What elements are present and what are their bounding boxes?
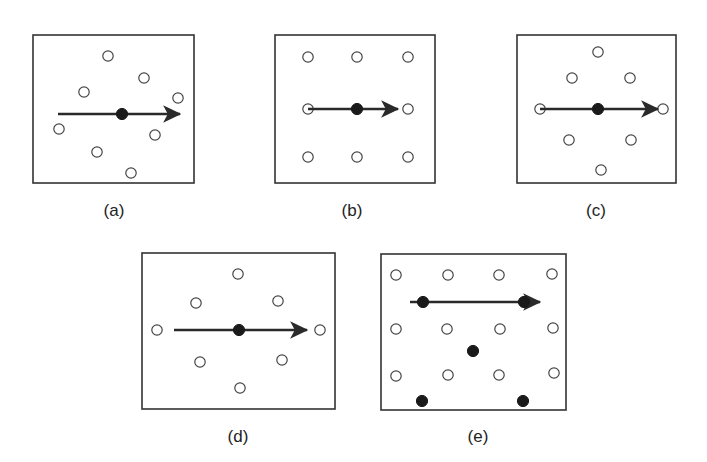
open-lattice-site-icon — [103, 51, 113, 61]
open-lattice-site-icon — [494, 270, 504, 280]
panel-frame — [381, 254, 566, 410]
filled-atom-icon — [351, 103, 362, 114]
open-lattice-site-icon — [195, 357, 205, 367]
filled-atom-icon — [116, 108, 127, 119]
open-lattice-site-icon — [235, 383, 245, 393]
open-lattice-site-icon — [626, 135, 636, 145]
open-lattice-site-icon — [173, 93, 183, 103]
open-lattice-site-icon — [233, 269, 243, 279]
open-lattice-site-icon — [139, 73, 149, 83]
open-lattice-site-icon — [548, 323, 558, 333]
open-lattice-site-icon — [273, 296, 283, 306]
open-lattice-site-icon — [403, 52, 413, 62]
open-lattice-site-icon — [403, 104, 413, 114]
open-lattice-site-icon — [150, 130, 160, 140]
open-lattice-site-icon — [443, 370, 453, 380]
open-lattice-site-icon — [596, 165, 606, 175]
open-lattice-site-icon — [92, 147, 102, 157]
open-lattice-site-icon — [495, 324, 505, 334]
panel-label: (e) — [468, 427, 489, 446]
panel-label: (d) — [228, 427, 249, 446]
open-lattice-site-icon — [152, 325, 162, 335]
panel-label: (a) — [104, 201, 125, 220]
filled-atom-icon — [417, 296, 428, 307]
filled-atom-icon — [517, 395, 528, 406]
panels: (a)(b)(c)(d)(e) — [33, 35, 676, 446]
lattice-figure: (a)(b)(c)(d)(e) — [0, 0, 707, 462]
open-lattice-site-icon — [658, 104, 668, 114]
open-lattice-site-icon — [442, 324, 452, 334]
open-lattice-site-icon — [126, 168, 136, 178]
open-lattice-site-icon — [391, 270, 401, 280]
open-lattice-site-icon — [79, 87, 89, 97]
filled-atom-icon — [467, 345, 478, 356]
filled-atom-icon — [592, 103, 603, 114]
open-lattice-site-icon — [443, 270, 453, 280]
panel-a: (a) — [33, 35, 194, 220]
open-lattice-site-icon — [391, 371, 401, 381]
panel-e: (e) — [381, 254, 566, 446]
open-lattice-site-icon — [494, 370, 504, 380]
open-lattice-site-icon — [54, 124, 64, 134]
open-lattice-site-icon — [277, 355, 287, 365]
panel-d: (d) — [142, 253, 335, 446]
open-lattice-site-icon — [303, 52, 313, 62]
open-lattice-site-icon — [352, 152, 362, 162]
panel-label: (b) — [342, 201, 363, 220]
open-lattice-site-icon — [564, 135, 574, 145]
open-lattice-site-icon — [625, 73, 635, 83]
panel-b: (b) — [275, 35, 435, 220]
open-lattice-site-icon — [352, 52, 362, 62]
open-lattice-site-icon — [549, 368, 559, 378]
panel-label: (c) — [586, 201, 606, 220]
open-lattice-site-icon — [303, 152, 313, 162]
open-lattice-site-icon — [567, 73, 577, 83]
open-lattice-site-icon — [593, 47, 603, 57]
open-lattice-site-icon — [403, 152, 413, 162]
filled-atom-icon — [416, 395, 427, 406]
open-lattice-site-icon — [391, 324, 401, 334]
open-lattice-site-icon — [191, 298, 201, 308]
open-lattice-site-icon — [547, 269, 557, 279]
open-lattice-site-icon — [315, 325, 325, 335]
panel-c: (c) — [517, 35, 676, 220]
filled-atom-icon — [518, 296, 529, 307]
filled-atom-icon — [233, 324, 244, 335]
